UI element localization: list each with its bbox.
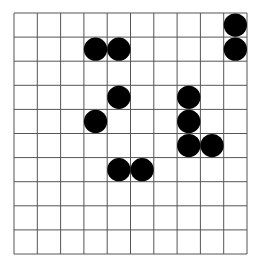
board-cell[interactable] [177, 158, 200, 182]
board-cell[interactable] [224, 85, 247, 109]
board-cell[interactable] [131, 37, 154, 61]
board-cell[interactable] [154, 206, 177, 230]
board-cell[interactable] [200, 206, 223, 230]
black-stone [177, 86, 200, 109]
board-cell[interactable] [61, 182, 84, 206]
board-cell[interactable] [224, 158, 247, 182]
board-cell[interactable] [14, 134, 37, 158]
board-cell[interactable] [84, 206, 107, 230]
board-cell[interactable] [37, 61, 60, 85]
board-cell[interactable] [200, 158, 223, 182]
board-cell[interactable] [177, 230, 200, 254]
board-cell[interactable] [14, 109, 37, 133]
board-cell[interactable] [107, 61, 130, 85]
board-cell[interactable] [61, 109, 84, 133]
board-cell[interactable] [14, 182, 37, 206]
board-cell[interactable] [37, 13, 60, 37]
board-cell[interactable] [107, 134, 130, 158]
black-stone [107, 86, 130, 109]
board-cell[interactable] [37, 230, 60, 254]
board-cell[interactable] [84, 158, 107, 182]
board-cell[interactable] [107, 13, 130, 37]
board-cell[interactable] [61, 206, 84, 230]
black-stone [84, 110, 107, 133]
board-cell[interactable] [37, 182, 60, 206]
board-cell[interactable] [131, 230, 154, 254]
board-cell[interactable] [200, 37, 223, 61]
board-cell[interactable] [14, 230, 37, 254]
black-stone [84, 38, 107, 61]
board-cell[interactable] [154, 109, 177, 133]
board-cell[interactable] [107, 230, 130, 254]
board-cell[interactable] [224, 134, 247, 158]
board-cell[interactable] [61, 37, 84, 61]
board-cell[interactable] [200, 109, 223, 133]
board-cell[interactable] [84, 85, 107, 109]
board-cell[interactable] [37, 85, 60, 109]
board-cell[interactable] [224, 109, 247, 133]
board-cell[interactable] [107, 109, 130, 133]
board-cell[interactable] [61, 134, 84, 158]
board-cell[interactable] [14, 158, 37, 182]
board-cell[interactable] [224, 182, 247, 206]
board-cell[interactable] [37, 37, 60, 61]
board-cell[interactable] [107, 206, 130, 230]
board-cell[interactable] [84, 13, 107, 37]
board-cell[interactable] [107, 182, 130, 206]
board-cell[interactable] [131, 61, 154, 85]
board-cell[interactable] [61, 230, 84, 254]
board-cell[interactable] [61, 61, 84, 85]
black-stone [224, 38, 247, 61]
board-cell[interactable] [131, 134, 154, 158]
board-cell[interactable] [200, 61, 223, 85]
board-cell[interactable] [61, 13, 84, 37]
board-cell[interactable] [61, 85, 84, 109]
board-cell[interactable] [14, 13, 37, 37]
black-stone [177, 110, 200, 133]
board-cell[interactable] [37, 158, 60, 182]
board-cell[interactable] [154, 85, 177, 109]
board-cell[interactable] [131, 206, 154, 230]
board-cell[interactable] [154, 182, 177, 206]
board-cell[interactable] [14, 206, 37, 230]
board-cell[interactable] [37, 109, 60, 133]
black-stone [107, 38, 130, 61]
board-cell[interactable] [14, 85, 37, 109]
board-cell[interactable] [177, 37, 200, 61]
board-cell[interactable] [154, 230, 177, 254]
board-cell[interactable] [131, 182, 154, 206]
board-cell[interactable] [154, 61, 177, 85]
board-cell[interactable] [224, 230, 247, 254]
board-cell[interactable] [84, 230, 107, 254]
board-cell[interactable] [14, 37, 37, 61]
board-cell[interactable] [200, 182, 223, 206]
black-stone [131, 158, 154, 181]
black-stone [200, 134, 223, 157]
board-cell[interactable] [37, 206, 60, 230]
board-cell[interactable] [131, 85, 154, 109]
board-cell[interactable] [154, 13, 177, 37]
board-cell[interactable] [200, 85, 223, 109]
board-cell[interactable] [154, 37, 177, 61]
board-cell[interactable] [177, 13, 200, 37]
board-cell[interactable] [224, 61, 247, 85]
board-cell[interactable] [84, 182, 107, 206]
board-cell[interactable] [61, 158, 84, 182]
board-cell[interactable] [131, 13, 154, 37]
black-stone [177, 134, 200, 157]
board-cell[interactable] [177, 61, 200, 85]
board-cell[interactable] [224, 206, 247, 230]
board-cell[interactable] [14, 61, 37, 85]
board-cell[interactable] [131, 109, 154, 133]
board-cell[interactable] [154, 134, 177, 158]
game-board[interactable] [0, 0, 259, 265]
board-cell[interactable] [84, 134, 107, 158]
board-cell[interactable] [177, 206, 200, 230]
black-stone [224, 13, 247, 36]
board-cell[interactable] [200, 13, 223, 37]
board-cell[interactable] [37, 134, 60, 158]
board-cell[interactable] [200, 230, 223, 254]
board-cell[interactable] [84, 61, 107, 85]
board-cell[interactable] [154, 158, 177, 182]
board-cell[interactable] [177, 182, 200, 206]
